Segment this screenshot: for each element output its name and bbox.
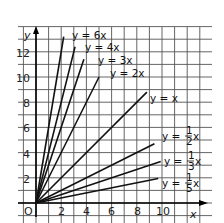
series-line-2	[36, 59, 84, 203]
label-y-3x: y = 3x	[98, 54, 133, 66]
y-tick-12: 12	[16, 47, 30, 60]
svg-text:2: 2	[186, 135, 193, 147]
y-tick-8: 8	[23, 97, 30, 110]
label-y-2x: y = 2x	[110, 67, 145, 79]
y-axis-arrow-icon	[33, 26, 39, 34]
x-tick-8: 8	[134, 205, 141, 218]
series-line-4	[36, 92, 147, 203]
label-y-4x: y = 4x	[85, 41, 120, 53]
x-axis-label: x	[189, 208, 197, 221]
svg-text:x: x	[193, 130, 199, 142]
svg-text:y =: y =	[162, 177, 180, 189]
y-tick-10: 10	[16, 72, 30, 85]
y-tick-6: 6	[23, 122, 30, 135]
series-line-1	[36, 47, 75, 203]
y-tick-2: 2	[23, 173, 30, 186]
x-axis-arrow-icon	[199, 200, 208, 206]
label-y-6x: y = 6x	[72, 29, 107, 41]
svg-text:y =: y =	[164, 155, 182, 167]
x-tick-6: 6	[108, 205, 115, 218]
y-tick-4: 4	[23, 148, 30, 161]
linear-functions-chart: y x O 2 4 6 8 10 12 2 4 6 8 10 y = 6x y …	[0, 0, 224, 223]
x-tick-2: 2	[58, 205, 65, 218]
x-tick-4: 4	[83, 205, 90, 218]
svg-text:x: x	[193, 177, 199, 189]
x-tick-10: 10	[156, 205, 170, 218]
svg-text:y =: y =	[162, 130, 180, 142]
label-y-x: y = x	[150, 92, 178, 104]
y-axis-label: y	[23, 29, 31, 42]
svg-text:x: x	[195, 155, 201, 167]
origin-label: O	[24, 205, 33, 218]
svg-text:5: 5	[186, 182, 193, 194]
